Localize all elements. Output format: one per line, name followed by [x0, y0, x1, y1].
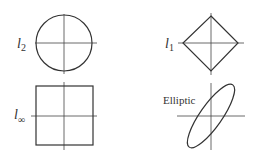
- linf-square: [36, 86, 93, 145]
- norm-unit-balls-diagram: l2 l1 l∞ Elliptic: [0, 0, 258, 159]
- linf-panel: l∞: [14, 82, 97, 150]
- l1-panel: l1: [165, 13, 244, 75]
- elliptic-label: Elliptic: [163, 94, 196, 106]
- l2-panel: l2: [17, 14, 97, 74]
- l2-label: l2: [17, 36, 26, 53]
- elliptic-panel: Elliptic: [163, 79, 245, 154]
- l1-diamond: [183, 16, 238, 71]
- linf-label: l∞: [14, 107, 25, 125]
- l1-label: l1: [165, 36, 174, 53]
